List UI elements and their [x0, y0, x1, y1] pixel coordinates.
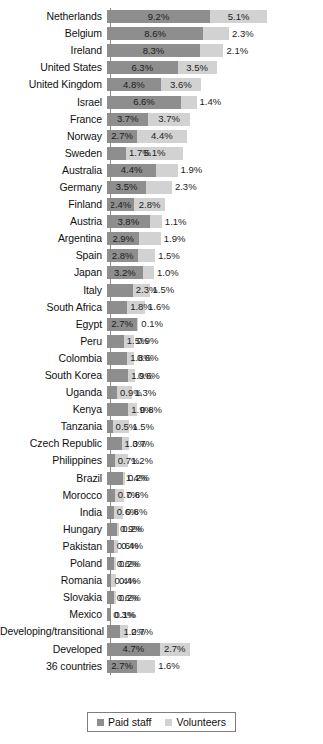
bar-group: 4.8%3.6%	[107, 78, 323, 91]
category-label: Kenya	[0, 404, 106, 415]
segment-value-label: 4.4%	[151, 131, 173, 141]
segment-value-label: 2.9%	[112, 234, 134, 244]
segment-value-label: 1.3%	[135, 388, 157, 398]
category-label: Hungary	[0, 524, 106, 535]
chart-row: Netherlands9.2%5.1%	[0, 8, 323, 25]
category-label: Poland	[0, 558, 106, 569]
category-label: Israel	[0, 97, 106, 108]
category-label: Romania	[0, 575, 106, 586]
chart-row: United Kingdom4.8%3.6%	[0, 76, 323, 93]
category-label: Finland	[0, 199, 106, 210]
segment-value-label: 0.8%	[126, 507, 148, 517]
segment-value-label: 4.4%	[121, 165, 143, 175]
segment-value-label: 0.2%	[119, 593, 141, 603]
legend-item[interactable]: Volunteers	[165, 716, 226, 728]
bar-group: 9.2%5.1%	[107, 10, 323, 23]
segment-value-label: 1.2%	[131, 456, 153, 466]
paid-staff-segment: 2.7%	[107, 660, 137, 673]
category-label: France	[0, 114, 106, 125]
category-label: Argentina	[0, 233, 106, 244]
chart-row: Mexico0.3%0.1%	[0, 606, 323, 623]
chart-row: Tanzania0.5%1.5%	[0, 418, 323, 435]
bar-group: 0.6%0.4%	[107, 540, 323, 553]
paid-staff-segment: 8.6%	[107, 27, 203, 40]
paid-staff-segment: 4.4%	[107, 164, 156, 177]
category-label: Spain	[0, 250, 106, 261]
bar-group: 4.7%2.7%	[107, 643, 323, 656]
category-label: Germany	[0, 182, 106, 193]
segment-value-label: 2.1%	[226, 46, 248, 56]
bar-group: 8.6%2.3%	[107, 27, 323, 40]
paid-staff-segment: 3.2%	[107, 266, 143, 279]
bar-group: 2.8%1.5%	[107, 249, 323, 262]
chart-row: South Korea1.9%0.6%	[0, 367, 323, 384]
segment-value-label: 1.4%	[200, 97, 222, 107]
volunteers-segment: 0.1%	[137, 318, 138, 331]
chart-row: Belgium8.6%2.3%	[0, 25, 323, 42]
segment-value-label: 1.5%	[153, 285, 175, 295]
bar-group: 0.3%0.1%	[107, 608, 323, 621]
segment-value-label: 2.7%	[164, 644, 186, 654]
paid-staff-segment: 4.8%	[107, 78, 161, 91]
volunteers-segment: 0.2%	[114, 557, 116, 570]
chart-row: Kenya1.9%0.8%	[0, 401, 323, 418]
bar-group: 0.6%0.2%	[107, 557, 323, 570]
category-label: South Africa	[0, 302, 106, 313]
segment-value-label: 8.6%	[144, 29, 166, 39]
chart-row: Argentina2.9%1.9%	[0, 230, 323, 247]
chart-row: Uganda0.9%1.3%	[0, 384, 323, 401]
paid-staff-segment: 2.7%	[107, 130, 137, 143]
segment-value-label: 1.1%	[165, 217, 187, 227]
segment-value-label: 0.2%	[128, 473, 150, 483]
segment-value-label: 3.7%	[158, 114, 180, 124]
bar-group: 3.2%1.0%	[107, 266, 323, 279]
paid-staff-segment: 2.8%	[107, 249, 138, 262]
segment-value-label: 2.7%	[111, 661, 133, 671]
category-label: Sweden	[0, 148, 106, 159]
bar-group: 2.7%1.6%	[107, 660, 323, 673]
segment-value-label: 0.4%	[121, 541, 143, 551]
bar-group: 3.7%3.7%	[107, 113, 323, 126]
chart-row: Brazil1.4%0.2%	[0, 470, 323, 487]
category-label: Belgium	[0, 28, 106, 39]
bar-group: 0.4%0.4%	[107, 574, 323, 587]
segment-value-label: 6.6%	[133, 97, 155, 107]
chart-rows: Netherlands9.2%5.1%Belgium8.6%2.3%Irelan…	[0, 8, 323, 675]
legend-item[interactable]: Paid staff	[97, 716, 152, 728]
paid-staff-segment: 3.7%	[107, 113, 148, 126]
segment-value-label: 4.8%	[123, 80, 145, 90]
segment-value-label: 0.4%	[119, 576, 141, 586]
chart-legend: Paid staffVolunteers	[87, 712, 236, 732]
paid-staff-segment: 6.6%	[107, 96, 181, 109]
volunteers-segment: 2.3%	[203, 27, 229, 40]
volunteers-segment: 2.1%	[200, 44, 224, 57]
category-label: Norway	[0, 131, 106, 142]
segment-value-label: 1.5%	[132, 422, 154, 432]
chart-row: Sweden1.7%5.1%	[0, 145, 323, 162]
volunteers-segment: 1.9%	[156, 164, 177, 177]
segment-value-label: 1.6%	[158, 661, 180, 671]
segment-value-label: 3.5%	[116, 182, 138, 192]
chart-row: Philippines0.7%1.2%	[0, 452, 323, 469]
bar-group: 6.3%3.5%	[107, 61, 323, 74]
bar-group: 0.7%0.8%	[107, 489, 323, 502]
category-label: Italy	[0, 285, 106, 296]
volunteers-segment: 5.1%	[210, 10, 267, 23]
segment-value-label: 2.7%	[111, 319, 133, 329]
chart-row: Hungary0.9%0.2%	[0, 521, 323, 538]
category-label: Pakistan	[0, 541, 106, 552]
chart-row: India0.6%0.8%	[0, 504, 323, 521]
chart-row: Pakistan0.6%0.4%	[0, 538, 323, 555]
volunteers-segment: 0.2%	[117, 523, 119, 536]
chart-row: Peru1.5%0.9%	[0, 333, 323, 350]
bar-group: 1.4%0.2%	[107, 472, 323, 485]
segment-value-label: 0.1%	[141, 319, 163, 329]
segment-value-label: 0.9%	[137, 336, 159, 346]
bar-group: 0.6%0.8%	[107, 506, 323, 519]
volunteers-segment: 4.4%	[137, 130, 186, 143]
category-label: Japan	[0, 267, 106, 278]
segment-value-label: 9.2%	[148, 12, 170, 22]
category-label: Netherlands	[0, 11, 106, 22]
chart-row: 36 countries2.7%1.6%	[0, 658, 323, 675]
segment-value-label: 2.7%	[111, 131, 133, 141]
